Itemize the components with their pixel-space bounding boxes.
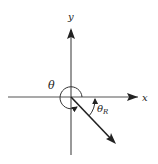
theta-label: θ bbox=[48, 79, 55, 92]
reference-angle-diagram: y x θ θR bbox=[0, 0, 158, 164]
theta-r-arc bbox=[89, 99, 95, 116]
theta-r-subscript: R bbox=[102, 108, 109, 116]
y-axis-label: y bbox=[67, 11, 74, 22]
theta-r-label: θR bbox=[97, 103, 109, 116]
x-axis-label: x bbox=[142, 92, 148, 103]
terminal-side-vector bbox=[71, 97, 113, 141]
